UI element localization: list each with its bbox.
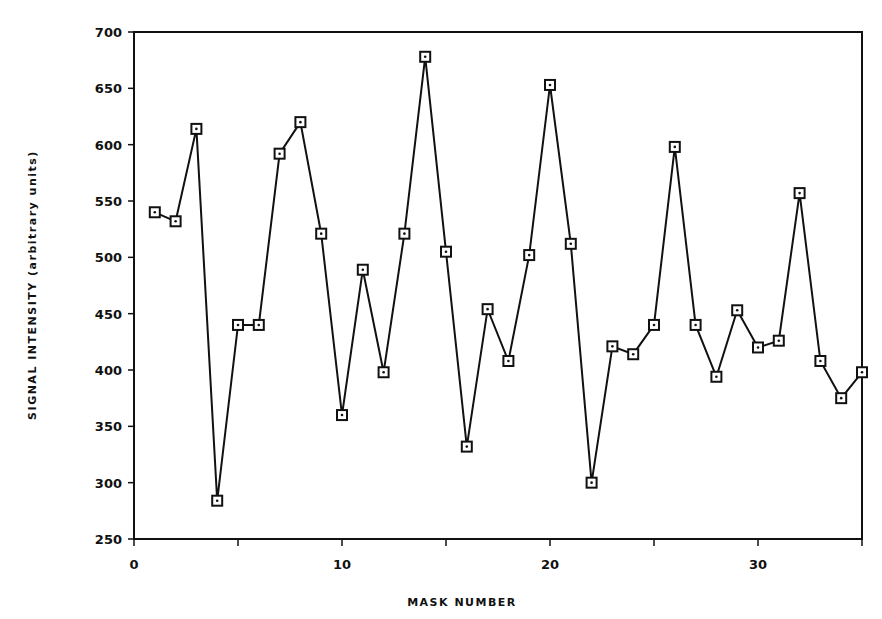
- marker-dot: [590, 481, 593, 484]
- marker-dot: [798, 192, 801, 195]
- marker-dot: [278, 152, 281, 155]
- marker-dot: [299, 121, 302, 124]
- x-axis-ticks: 0102030: [129, 539, 862, 572]
- marker-dot: [736, 309, 739, 312]
- marker-dot: [507, 360, 510, 363]
- y-axis-title: SIGNAL INTENSITY (arbitrary units): [26, 150, 39, 420]
- data-markers: [150, 52, 867, 506]
- marker-dot: [174, 220, 177, 223]
- plot-border: [134, 32, 862, 539]
- line-chart: 250300350400450500550600650700 0102030 M…: [0, 0, 882, 619]
- marker-dot: [694, 324, 697, 327]
- marker-dot: [840, 397, 843, 400]
- marker-dot: [757, 346, 760, 349]
- marker-dot: [549, 84, 552, 87]
- marker-dot: [362, 268, 365, 271]
- marker-dot: [861, 371, 864, 374]
- marker-dot: [528, 254, 531, 257]
- marker-dot: [341, 414, 344, 417]
- marker-dot: [778, 339, 781, 342]
- marker-dot: [154, 211, 157, 214]
- x-tick-label: 20: [541, 557, 559, 572]
- y-tick-label: 350: [95, 419, 122, 434]
- marker-dot: [819, 360, 822, 363]
- y-tick-label: 250: [95, 532, 122, 547]
- y-tick-label: 450: [95, 307, 122, 322]
- marker-dot: [715, 375, 718, 378]
- x-tick-label: 10: [333, 557, 351, 572]
- y-tick-label: 650: [95, 81, 122, 96]
- marker-dot: [258, 324, 261, 327]
- data-series-line: [155, 57, 862, 501]
- plot-frame: [134, 32, 862, 539]
- marker-dot: [237, 324, 240, 327]
- marker-dot: [674, 146, 677, 149]
- marker-dot: [216, 499, 219, 502]
- x-tick-label: 30: [749, 557, 767, 572]
- marker-dot: [570, 243, 573, 246]
- marker-dot: [424, 55, 427, 58]
- marker-dot: [320, 232, 323, 235]
- marker-dot: [632, 353, 635, 356]
- marker-dot: [611, 345, 614, 348]
- marker-dot: [466, 445, 469, 448]
- y-tick-label: 550: [95, 194, 122, 209]
- y-tick-label: 400: [95, 363, 122, 378]
- y-axis-ticks: 250300350400450500550600650700: [95, 25, 134, 547]
- marker-dot: [445, 250, 448, 253]
- x-axis-title: MASK NUMBER: [407, 596, 517, 609]
- y-tick-label: 300: [95, 476, 122, 491]
- marker-dot: [195, 128, 198, 131]
- marker-dot: [403, 232, 406, 235]
- y-tick-label: 600: [95, 138, 122, 153]
- marker-dot: [653, 324, 656, 327]
- x-tick-label: 0: [129, 557, 138, 572]
- marker-dot: [486, 308, 489, 311]
- y-tick-label: 700: [95, 25, 122, 40]
- series-polyline: [155, 57, 862, 501]
- marker-dot: [382, 371, 385, 374]
- y-tick-label: 500: [95, 250, 122, 265]
